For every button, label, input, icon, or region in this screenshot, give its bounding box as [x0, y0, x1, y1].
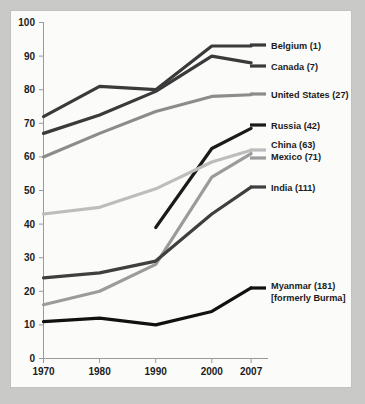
series-line-china-63 — [44, 150, 252, 214]
x-tick-label-2000: 2000 — [201, 366, 224, 377]
y-tick-label-40: 40 — [24, 219, 36, 230]
y-tick-label-80: 80 — [24, 84, 36, 95]
legend-label-russia: Russia (42) — [271, 121, 320, 131]
legend-label-china: China (63) — [271, 140, 315, 150]
line-chart: 100 90 80 70 60 50 40 30 20 10 0 1970 19… — [0, 0, 365, 404]
y-axis-ticks — [39, 23, 44, 359]
series-line-india-111 — [44, 187, 252, 278]
series-line-united-states-27 — [44, 95, 252, 157]
x-axis-ticks — [44, 359, 252, 364]
chart-page: 100 90 80 70 60 50 40 30 20 10 0 1970 19… — [0, 0, 365, 404]
series-line-mexico-71 — [44, 154, 252, 305]
legend-label-myanmar: Myanmar (181) — [271, 281, 335, 291]
y-tick-label-90: 90 — [24, 51, 36, 62]
y-tick-label-20: 20 — [24, 286, 36, 297]
x-axis-tick-labels: 1970 1980 1990 2000 2007 — [32, 366, 262, 377]
legend-label-united-states: United States (27) — [271, 90, 349, 100]
legend-label-myanmar-note: [formerly Burma] — [271, 293, 346, 303]
x-tick-label-2007: 2007 — [240, 366, 263, 377]
x-tick-label-1970: 1970 — [32, 366, 55, 377]
y-tick-label-100: 100 — [18, 17, 35, 28]
chart-series-group — [44, 46, 252, 325]
legend-label-india: India (111) — [271, 183, 315, 193]
x-tick-label-1980: 1980 — [88, 366, 111, 377]
y-tick-label-70: 70 — [24, 118, 36, 129]
y-tick-label-10: 10 — [24, 319, 36, 330]
y-tick-label-50: 50 — [24, 185, 36, 196]
y-tick-label-60: 60 — [24, 151, 36, 162]
legend-label-belgium: Belgium (1) — [271, 41, 321, 51]
y-tick-label-0: 0 — [29, 353, 35, 364]
series-line-russia-42 — [156, 128, 251, 227]
series-line-myanmar-181-formerly-burma — [44, 288, 252, 325]
y-tick-label-30: 30 — [24, 252, 36, 263]
legend-label-mexico: Mexico (71) — [271, 152, 321, 162]
y-axis-tick-labels: 100 90 80 70 60 50 40 30 20 10 0 — [18, 17, 35, 364]
x-tick-label-1990: 1990 — [145, 366, 168, 377]
chart-legend: Belgium (1) Canada (7) United States (27… — [250, 41, 349, 304]
legend-label-canada: Canada (7) — [271, 62, 318, 72]
